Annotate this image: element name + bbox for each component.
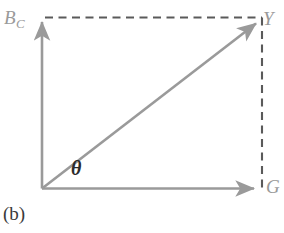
horizontal-axis-label: G [266,177,280,196]
angle-theta-label: θ [71,158,81,178]
vector-diagram-canvas [0,0,284,233]
resultant-vector-label: Y [263,9,274,28]
vertical-axis-label-base: B [4,7,16,28]
figure-caption: (b) [3,204,25,223]
vector-diagram-figure: BC Y G θ (b) [0,0,284,233]
vertical-axis-label: BC [4,8,25,30]
vertical-axis-label-subscript: C [16,16,25,31]
